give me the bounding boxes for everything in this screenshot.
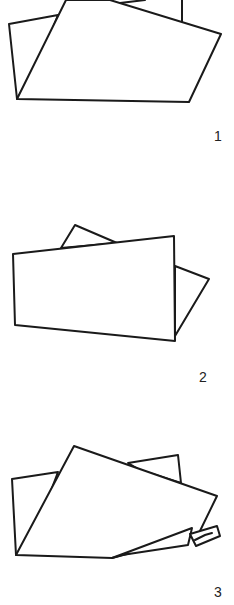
fig2-front-sheet: [13, 236, 175, 341]
figure-3-label: 3: [214, 585, 222, 599]
figure-3-drawing: [12, 446, 220, 558]
figure-2-label: 2: [199, 370, 207, 384]
figure-2-drawing: [13, 225, 209, 341]
figure-1-drawing: [9, 0, 221, 102]
fig1-back-top-edge: [120, 0, 145, 3]
fig2-back-right-sheet: [175, 266, 209, 336]
figure-1-label: 1: [214, 129, 222, 143]
folding-diagram: [0, 0, 234, 605]
fig1-front-sheet: [17, 0, 221, 102]
